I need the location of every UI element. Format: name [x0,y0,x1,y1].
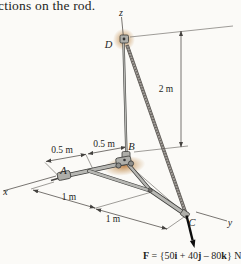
z-axis-label: z [118,7,123,18]
point-label-b: B [128,141,135,152]
extension-line-c-bottom [166,217,184,230]
point-label-a: A [59,165,67,176]
extension-line-a-bottom [31,182,54,189]
statics-figure: z x y D B A C 2 m 0.5 m 0.5 m 1 m 1 m F … [0,0,241,264]
extension-line-mid-top [86,155,93,170]
dim-label-rod-1: 0.5 m [51,145,73,155]
y-axis-label: y [227,217,233,228]
brace-junction [149,189,153,193]
dim-label-2m: 2 m [159,84,174,94]
x-axis-label: x [2,186,8,197]
point-label-c: C [188,217,196,228]
extension-line-d [130,26,233,37]
dimension-line-rod-1 [46,154,86,161]
dim-label-rod-2: 0.5 m [93,139,115,149]
point-label-d: D [104,39,113,50]
y-axis-line [196,212,227,221]
dim-label-base-2: 1 m [106,214,121,224]
fitting-d [120,35,129,43]
extension-line-junction-bottom [94,193,150,209]
pole-bd [124,41,127,158]
dim-label-base-1: 1 m [62,192,77,202]
force-label: F = {50i + 40j – 80k} N [143,250,241,261]
